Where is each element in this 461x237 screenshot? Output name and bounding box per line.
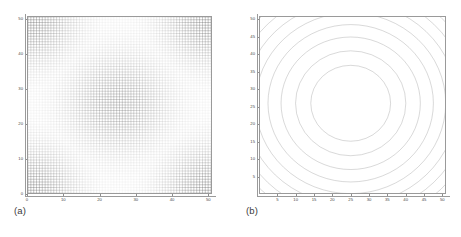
- plot-a-ytick-label: 40: [12, 52, 23, 56]
- plot-b-ytick-label: 50: [244, 17, 255, 21]
- plot-b-ytick-label: 15: [244, 140, 255, 144]
- plot-b-xtick-label: 50: [440, 198, 445, 202]
- plot-a-xtick-label: 30: [133, 198, 138, 202]
- contour-ring: [281, 37, 420, 170]
- mesh-grid-layer: [28, 17, 211, 193]
- plot-b-ytick-label: 35: [244, 70, 255, 74]
- plot-a-ytick-label: 30: [12, 87, 23, 91]
- plot-b-ytick-label: 25: [244, 105, 255, 109]
- plot-b-xtick-label: 10: [293, 198, 298, 202]
- plot-b-ytick-label: 10: [244, 157, 255, 161]
- panel-a-label: (a): [14, 205, 26, 216]
- plot-b-frame: [259, 16, 446, 194]
- plot-a-xtick-label: 10: [61, 198, 66, 202]
- plot-a-ytick-label: 50: [12, 17, 23, 21]
- panel-b-label: (b): [246, 205, 258, 216]
- plot-b-ytick-label: 30: [244, 87, 255, 91]
- plot-b-x-axis-line: [257, 196, 450, 197]
- plot-b-xtick-label: 15: [312, 198, 317, 202]
- plot-b-xtick-label: 25: [348, 198, 353, 202]
- contour-svg: [260, 17, 445, 193]
- plot-a-frame: [27, 16, 212, 194]
- plot-b-xtick-label: 35: [385, 198, 390, 202]
- plot-b-xtick-label: 45: [422, 198, 427, 202]
- contour-ring: [260, 17, 445, 193]
- plot-a-ytick-label: 20: [12, 122, 23, 126]
- plot-a-xtick-label: 20: [97, 198, 102, 202]
- contour-ring: [260, 17, 445, 193]
- plot-b-xtick-label: 5: [276, 198, 278, 202]
- figure-container: 0102030405001020304050 (a) 5101520253035…: [0, 0, 461, 237]
- panel-a: 0102030405001020304050 (a): [0, 0, 230, 237]
- plot-b-ytick-label: 5: [244, 174, 255, 178]
- plot-b-ytick-label: 45: [244, 35, 255, 39]
- contour-ring: [260, 17, 445, 193]
- plot-b-ytick-label: 40: [244, 52, 255, 56]
- plot-b-ytick-label: 20: [244, 122, 255, 126]
- plot-b-xtick-label: 40: [403, 198, 408, 202]
- contour-ring: [260, 17, 445, 193]
- plot-b-y-axis-line: [257, 14, 258, 196]
- contour-ring: [260, 17, 445, 193]
- plot-a-xtick-label: 0: [26, 198, 28, 202]
- plot-b-xtick-label: 30: [367, 198, 372, 202]
- contour-ring: [260, 17, 445, 193]
- contour-ring: [311, 65, 391, 141]
- panel-b: 51015202530354045505101520253035404550 (…: [230, 0, 460, 237]
- plot-a-xtick-label: 50: [206, 198, 211, 202]
- plot-a-ytick-label: 0: [12, 192, 23, 196]
- mesh-grid-svg: [28, 17, 211, 193]
- contour-ring: [260, 17, 445, 193]
- plot-a-ytick-label: 10: [12, 157, 23, 161]
- plot-b-xtick-label: 20: [330, 198, 335, 202]
- contour-ring: [268, 25, 433, 182]
- plot-a-x-axis-line: [25, 196, 216, 197]
- plot-a-xtick-label: 40: [170, 198, 175, 202]
- plot-a-y-axis-line: [25, 14, 26, 196]
- contour-ring: [260, 17, 445, 193]
- contour-ring: [296, 51, 406, 156]
